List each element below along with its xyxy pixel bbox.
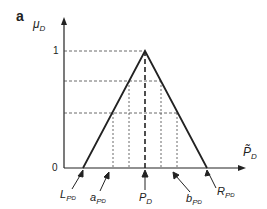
- label-L: LPD: [60, 189, 76, 203]
- y-tick-0: 0: [52, 163, 58, 173]
- label-b: bPD: [186, 193, 202, 207]
- y-axis-label: μD: [33, 18, 45, 33]
- y-tick-1: 1: [53, 46, 59, 56]
- y-axis-arrow-icon: [61, 17, 67, 25]
- label-R: RPD: [217, 186, 235, 200]
- label-P: PD: [139, 192, 152, 206]
- label-a: aPD: [90, 192, 106, 206]
- x-axis-arrow-icon: [238, 165, 246, 171]
- panel-label: a: [16, 9, 24, 23]
- x-axis-label: P̃D: [243, 146, 257, 161]
